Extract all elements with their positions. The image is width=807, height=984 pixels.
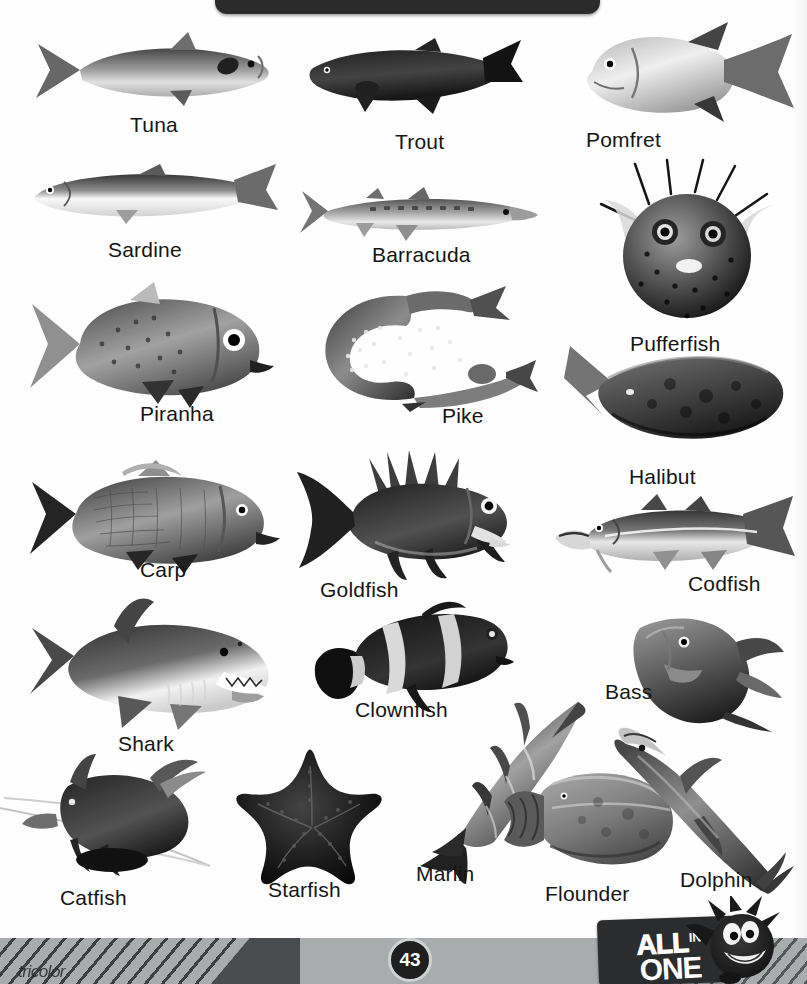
catfish-image [0, 748, 235, 883]
specimen-halibut: Halibut [555, 338, 805, 493]
specimen-label-carp: Carp [140, 558, 186, 582]
codfish-image [545, 490, 800, 580]
specimen-label-pike: Pike [442, 404, 484, 428]
specimen-label-starfish: Starfish [268, 878, 341, 902]
pufferfish-image [595, 160, 785, 330]
carp-image [20, 458, 288, 568]
specimen-pufferfish: Pufferfish [585, 160, 803, 360]
title-banner: FISH [215, 0, 600, 14]
bass-image [612, 608, 787, 733]
specimen-label-codfish: Codfish [688, 572, 761, 596]
specimen-label-tuna: Tuna [130, 113, 178, 137]
pike-image [310, 282, 540, 412]
piranha-image [18, 282, 290, 412]
specimen-piranha: Piranha [18, 282, 298, 447]
publisher-logo: tricolor [18, 962, 65, 982]
specimen-label-bass: Bass [605, 680, 653, 704]
specimen-barracuda: Barracuda [300, 175, 550, 290]
specimen-pomfret: Pomfret [548, 20, 803, 155]
shark-image [18, 600, 290, 740]
specimen-starfish: Starfish [230, 750, 410, 915]
page-number-badge: 43 [388, 938, 432, 982]
specimen-sardine: Sardine [20, 160, 290, 270]
specimen-label-dolphin: Dolphin [680, 868, 753, 892]
goldfish-image [295, 450, 535, 580]
halibut-image [560, 338, 790, 458]
specimen-pike: Pike [310, 282, 550, 452]
specimen-shark: Shark [18, 600, 298, 765]
specimen-carp: Carp [20, 458, 295, 598]
specimen-label-pomfret: Pomfret [586, 128, 661, 152]
fish-chart-page: FISH Tuna [0, 0, 807, 984]
specimen-goldfish: Goldfish [295, 450, 545, 610]
specimen-bass: Bass [600, 608, 805, 733]
specimen-label-barracuda: Barracuda [372, 243, 471, 267]
specimen-trout: Trout [295, 38, 535, 158]
specimen-label-marlin: Marlin [416, 862, 474, 886]
specimen-label-sardine: Sardine [108, 238, 182, 262]
specimen-dolphin: Dolphin [608, 720, 807, 920]
mascot-icon [684, 896, 794, 984]
specimen-catfish: Catfish [0, 748, 240, 918]
tuna-image [20, 28, 280, 110]
specimen-label-catfish: Catfish [60, 886, 127, 910]
trout-image [295, 38, 527, 118]
barracuda-image [300, 175, 540, 250]
sardine-image [20, 160, 282, 230]
specimen-codfish: Codfish [545, 490, 805, 605]
specimen-tuna: Tuna [20, 28, 290, 138]
pomfret-image [548, 20, 796, 125]
specimen-label-trout: Trout [395, 130, 444, 154]
starfish-image [230, 750, 400, 890]
specimen-label-piranha: Piranha [140, 402, 214, 426]
specimen-label-goldfish: Goldfish [320, 578, 399, 602]
specimen-label-halibut: Halibut [629, 465, 696, 489]
